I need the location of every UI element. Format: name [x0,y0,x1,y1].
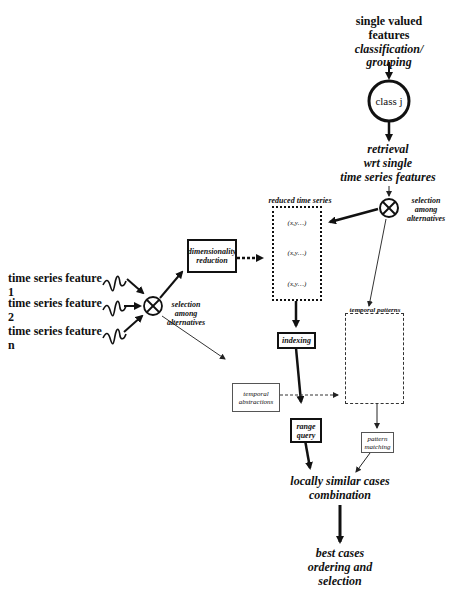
temporal-patterns-box [345,313,404,404]
indexing-box: indexing [277,332,316,349]
grouping-text: grouping [344,56,434,70]
reduced-ts-item: (x,y…) [288,280,307,288]
temporal-abstractions-box: temporal abstractions [232,383,280,412]
indexing-label: indexing [282,336,311,345]
best-cases-line1: best cases [300,547,380,561]
retrieval-label: retrieval wrt single time series feature… [320,143,456,184]
selection-left-symbol [144,297,162,315]
dimensionality-reduction-box: dimensionality reduction [187,239,237,273]
combination-line2: combination [280,489,400,503]
range-query-line2: query [296,431,315,440]
best-cases-label: best cases ordering and selection [300,547,380,588]
selection-left-label: selection among alternatives [166,300,206,328]
input-time-series-feature-n: time series feature n [8,325,104,353]
pattern-matching-line1: pattern [364,435,390,443]
wrt-single-text: wrt single [320,157,456,171]
selection-left-line3: alternatives [166,318,206,327]
selection-left-line2: among [166,309,206,318]
combination-label: locally similar cases combination [280,475,400,503]
single-valued-features-label: single valued features classification/ g… [344,15,434,70]
single-valued-text: single valued [344,15,434,29]
range-query-line1: range [296,422,315,431]
dim-reduction-line1: dimensionality [188,247,236,256]
selection-right-line3: alternatives [400,214,452,223]
selection-right-line1: selection [400,196,452,205]
pattern-matching-box: pattern matching [361,432,394,453]
selection-left-line1: selection [166,300,206,309]
best-cases-line3: selection [300,575,380,589]
class-node-label: class j [369,95,409,108]
selection-right-label: selection among alternatives [400,196,452,224]
reduced-ts-item: (x,y…) [288,219,307,227]
temporal-abstractions-line2: abstractions [239,398,274,406]
classification-text: classification/ [344,43,434,57]
time-series-features-text: time series features [320,171,456,185]
pattern-matching-line2: matching [364,443,390,451]
reduced-time-series-box: (x,y…) (x,y…) (x,y…) [272,206,322,301]
reduced-ts-item: (x,y…) [288,249,307,257]
reduced-time-series-title: reduced time series [265,196,335,205]
combination-line1: locally similar cases [280,475,400,489]
best-cases-line2: ordering and [300,561,380,575]
temporal-abstractions-line1: temporal [239,390,274,398]
features-text: features [344,29,434,43]
selection-right-line2: among [400,205,452,214]
input-time-series-feature-2: time series feature 2 [8,297,104,325]
dim-reduction-line2: reduction [188,256,236,265]
range-query-box: range query [290,418,322,443]
selection-right-symbol [380,199,398,217]
retrieval-text: retrieval [320,143,456,157]
